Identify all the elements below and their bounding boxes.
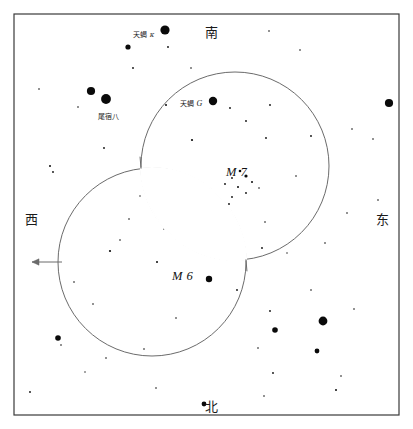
star-point [244,174,247,177]
star-point [190,67,192,69]
star-point [156,261,158,263]
star-point [268,30,270,32]
star-point [258,187,260,189]
star-point [231,177,233,179]
star-point [101,94,111,104]
star-point [237,186,239,188]
star-point [239,170,242,173]
sky-canvas [0,0,413,429]
star-point [49,165,51,167]
star-point [87,87,95,95]
star-point [269,310,271,312]
star-point [295,175,297,177]
star-point [299,49,301,51]
star-point [29,391,31,393]
star-point [167,46,169,48]
star-point [310,289,312,291]
star-point [191,139,193,141]
star-point [340,375,342,377]
star-point [351,128,353,130]
star-point [60,344,62,346]
star-point [272,327,278,333]
star-point [84,371,85,372]
star-point [132,67,134,69]
star-point [251,181,253,183]
star-point [92,303,94,305]
star-point [165,104,167,106]
star-point [228,203,230,205]
star-point [38,88,40,90]
star-point [286,252,287,253]
star-point [263,395,265,397]
star-point [335,389,337,391]
star-point [385,99,393,107]
star-point [236,289,238,291]
star-point [245,120,247,122]
star-point [139,195,140,196]
star-point [372,138,374,140]
star-point [52,171,54,173]
star-point [231,196,233,198]
star-point [125,44,130,49]
star-point [353,308,355,310]
star-point [77,106,79,108]
star-point [73,281,75,283]
star-point [269,104,271,106]
star-point [257,347,259,349]
star-point [128,218,130,220]
star-point [224,183,226,185]
star-point [272,372,274,374]
star-point [160,25,169,34]
star-point [175,317,177,319]
star-point [55,335,61,341]
star-point [315,349,320,354]
star-point [202,402,207,407]
star-point [229,107,231,109]
star-point [310,135,312,137]
star-point [155,387,157,389]
star-point [346,212,348,214]
star-point [206,276,212,282]
star-point [264,221,266,223]
star-point [377,199,379,201]
star-point [265,137,267,139]
star-point [105,357,107,359]
star-point [245,192,247,194]
star-point [261,247,263,249]
star-point [209,97,217,105]
star-point [143,348,145,350]
star-chart: 南东北西M 7M 6天蝎 κ尾宿八天蝎 G [0,0,413,429]
star-point [324,242,326,244]
star-point [119,239,121,241]
star-point [109,250,111,252]
star-point [103,147,105,149]
star-point [319,317,328,326]
